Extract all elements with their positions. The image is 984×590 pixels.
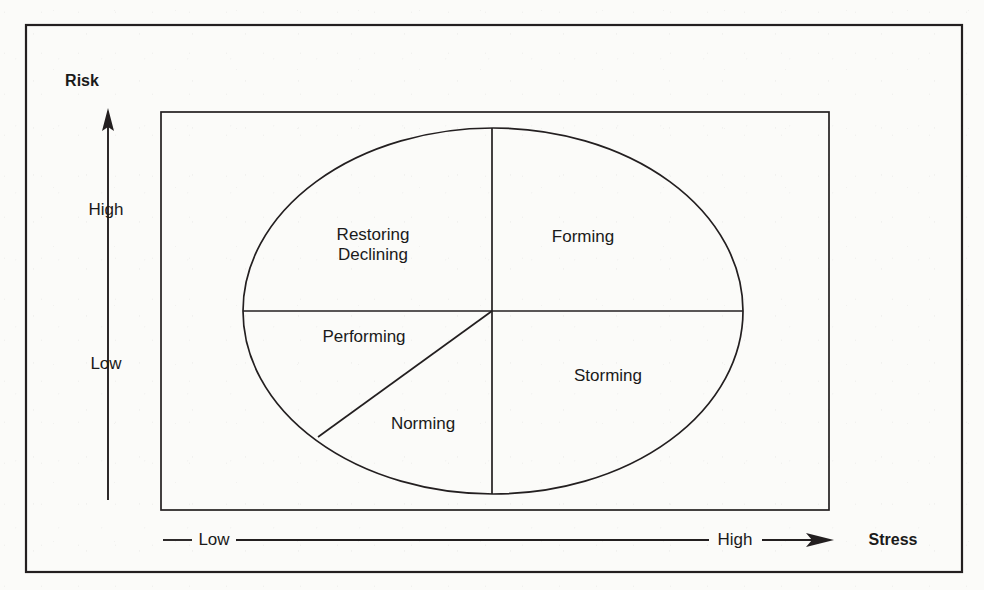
risk-axis-title: Risk <box>65 72 99 91</box>
risk-axis-tick-high: High <box>89 200 124 220</box>
segment-label-line-2: Declining <box>337 245 410 265</box>
stress-axis-tick-high: High <box>718 530 753 550</box>
stress-axis-tick-low: Low <box>198 530 229 550</box>
stress-axis-title: Stress <box>869 531 918 550</box>
segment-label-forming: Forming <box>552 227 614 247</box>
diagram-vector-layer <box>0 0 984 590</box>
outer-border-rect <box>26 25 962 572</box>
segment-label-norming: Norming <box>391 414 455 434</box>
risk-axis-tick-low: Low <box>90 354 121 374</box>
segment-label-restoring-declining: Restoring Declining <box>337 225 410 265</box>
segment-label-performing: Performing <box>322 327 405 347</box>
segment-label-line-1: Restoring <box>337 225 410 245</box>
diagram-canvas: Risk Stress High Low Low High Restoring … <box>0 0 984 590</box>
segment-label-storming: Storming <box>574 366 642 386</box>
